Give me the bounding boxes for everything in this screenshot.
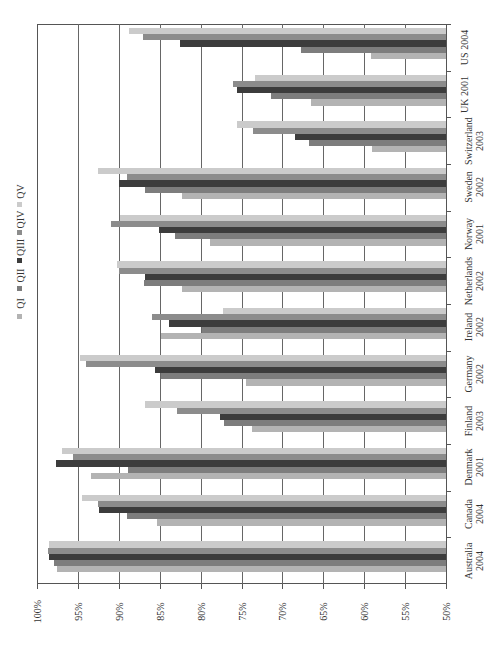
value-tick <box>119 584 120 589</box>
value-tick <box>364 584 365 589</box>
value-tick <box>201 584 202 589</box>
category-tick <box>446 444 451 445</box>
value-tick <box>282 584 283 589</box>
legend: QIQIIQIIIQIVQV <box>8 170 32 320</box>
legend-item-qv: QV <box>8 180 32 208</box>
value-tick-label: 85% <box>155 592 166 632</box>
bar-qi <box>371 53 446 59</box>
bar-qi <box>91 473 446 479</box>
category-tick <box>446 304 451 305</box>
bar-qi <box>311 99 446 105</box>
value-tick-label: 100% <box>32 592 43 632</box>
category-tick <box>446 491 451 492</box>
bar-qi <box>252 426 446 432</box>
bar-qi <box>182 286 446 292</box>
value-tick <box>405 584 406 589</box>
category-tick <box>446 164 451 165</box>
value-tick <box>37 584 38 589</box>
legend-label: QIII <box>15 232 26 264</box>
legend-label: QV <box>15 176 26 208</box>
rotated-bar-chart: 50%55%60%65%70%75%80%85%90%95%100% Austr… <box>0 0 496 672</box>
category-tick <box>446 71 451 72</box>
category-tick <box>446 397 451 398</box>
legend-item-qii: QII <box>8 264 32 292</box>
category-tick <box>446 117 451 118</box>
bar-qi <box>161 333 446 339</box>
value-tick-label: 70% <box>277 592 288 632</box>
bar-qi <box>372 146 446 152</box>
value-tick <box>78 584 79 589</box>
bar-qi <box>157 519 446 525</box>
legend-label: QIV <box>15 204 26 236</box>
legend-item-qi: QI <box>8 292 32 320</box>
value-tick-label: 55% <box>400 592 411 632</box>
value-tick-label: 80% <box>196 592 207 632</box>
category-tick <box>446 351 451 352</box>
category-tick <box>446 211 451 212</box>
value-tick <box>242 584 243 589</box>
value-tick-label: 95% <box>73 592 84 632</box>
category-tick <box>446 257 451 258</box>
legend-label: QII <box>15 260 26 292</box>
value-tick-label: 90% <box>114 592 125 632</box>
legend-item-qiii: QIII <box>8 236 32 264</box>
value-tick <box>323 584 324 589</box>
value-tick <box>160 584 161 589</box>
value-tick <box>446 584 447 589</box>
gridline <box>78 24 79 584</box>
bar-qi <box>210 239 446 245</box>
legend-label: QI <box>15 288 26 320</box>
bar-qi <box>246 379 446 385</box>
legend-item-qiv: QIV <box>8 208 32 236</box>
value-tick-label: 50% <box>441 592 452 632</box>
value-tick-label: 75% <box>237 592 248 632</box>
value-tick-label: 60% <box>359 592 370 632</box>
value-tick-label: 65% <box>318 592 329 632</box>
category-tick <box>446 537 451 538</box>
bar-qi <box>182 193 446 199</box>
category-label: US 2004 <box>458 12 469 82</box>
bar-qi <box>57 566 446 572</box>
category-tick <box>446 24 451 25</box>
